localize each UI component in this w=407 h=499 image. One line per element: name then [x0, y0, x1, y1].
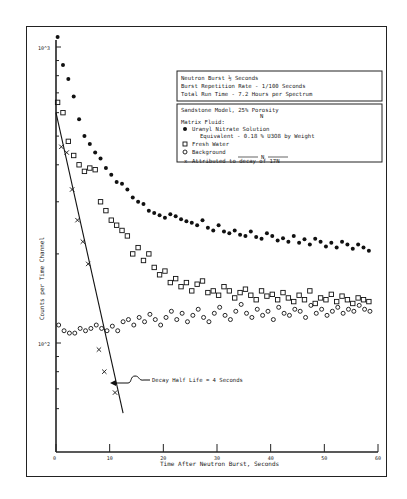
half-life-annotation: Decay Half Life = 4 Seconds — [152, 377, 243, 384]
series-decay-17n — [59, 145, 117, 395]
x-axis-title: Time After Neutron Burst, Seconds — [160, 460, 280, 467]
info-line-3: Total Run Time - 7.2 Hours per Spectrum — [181, 91, 313, 98]
x-ticks — [56, 444, 378, 452]
svg-text:40: 40 — [268, 455, 274, 461]
series-background — [57, 302, 372, 335]
svg-text:10: 10 — [107, 455, 113, 461]
y-tick-label-100: 10^2 — [38, 341, 50, 347]
svg-text:0: 0 — [53, 455, 56, 461]
legend-title: Sandstone Model, 25% Porosity — [181, 107, 279, 114]
legend-title-sub: N — [260, 113, 263, 119]
svg-text:30: 30 — [214, 455, 220, 461]
legend-matrix-label: Matrix Fluid: — [181, 119, 225, 125]
annotation-arrow — [112, 376, 150, 383]
scatter-chart: 10^3 10^2 Counts per Time Channel Time A… — [0, 0, 407, 499]
info-line-1: Neutron Burst ½ Seconds — [181, 75, 258, 81]
legend-entry-water: Fresh Water — [192, 141, 230, 147]
x-tick-labels: 0102030405060 — [53, 455, 381, 461]
arrow-head-icon — [110, 380, 116, 386]
decay-fit-line — [56, 113, 123, 413]
legend-entry-decay: Attributed to decay of 17N — [192, 158, 280, 165]
legend-entry-uranyl-2: Equivalent - 0.18 % U3O8 by Weight — [200, 133, 315, 140]
legend-entry-background: Background — [192, 149, 226, 156]
legend-entry-uranyl: Uranyl Nitrate Solution — [192, 126, 269, 133]
filled-circle-icon — [183, 127, 187, 131]
y-axis-title: Counts per Time Channel — [38, 237, 46, 320]
svg-text:60: 60 — [375, 455, 381, 461]
svg-text:50: 50 — [321, 455, 327, 461]
y-tick-label-1000: 10^3 — [38, 45, 50, 51]
info-line-2: Burst Repetition Rate - 1/100 Seconds — [181, 83, 306, 90]
svg-text:20: 20 — [160, 455, 166, 461]
